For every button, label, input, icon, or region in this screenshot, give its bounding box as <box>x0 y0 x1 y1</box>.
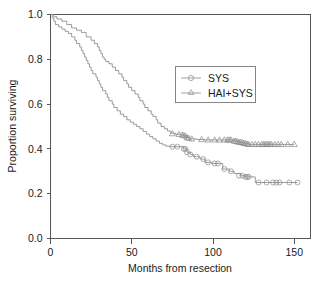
survival-plot-canvas: 0.00.20.40.60.81.0 050100150 Months from… <box>0 0 325 282</box>
legend-label-hai-sys: HAI+SYS <box>208 87 253 99</box>
x-tick-label: 100 <box>204 246 222 258</box>
y-tick-label: 1.0 <box>28 8 43 20</box>
censor-triangle-hai-sys <box>205 137 211 142</box>
y-tick-label: 0.8 <box>28 53 43 65</box>
x-axis-title: Months from resection <box>128 262 232 274</box>
x-tick-label: 150 <box>285 246 303 258</box>
censor-triangle-hai-sys <box>291 141 297 146</box>
censor-triangle-hai-sys <box>199 136 205 141</box>
curve-sys <box>51 15 298 183</box>
x-tick-label: 50 <box>126 246 138 258</box>
plot-frame <box>51 15 311 239</box>
x-tick-label: 0 <box>48 246 54 258</box>
y-axis-title: Proportion surviving <box>6 79 18 172</box>
y-tick-label: 0.2 <box>28 187 43 199</box>
y-tick-label: 0.6 <box>28 98 43 110</box>
censoring-marks <box>169 131 300 185</box>
censor-triangle-hai-sys <box>285 141 291 146</box>
y-tick-label: 0.4 <box>28 143 43 155</box>
kaplan-meier-figure: 0.00.20.40.60.81.0 050100150 Months from… <box>0 0 325 282</box>
legend-label-sys: SYS <box>208 72 229 84</box>
x-axis: 050100150 <box>48 239 304 258</box>
y-axis: 0.00.20.40.60.81.0 <box>28 8 51 244</box>
plot-border <box>51 15 311 239</box>
y-tick-label: 0.0 <box>28 232 43 244</box>
legend[interactable]: SYS HAI+SYS <box>176 67 256 103</box>
curve-hai-sys <box>51 15 295 145</box>
survival-curves <box>51 15 298 183</box>
